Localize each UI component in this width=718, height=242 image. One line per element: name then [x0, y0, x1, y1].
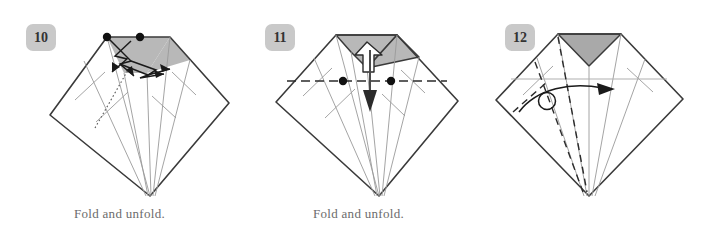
origami-diagram-12 — [479, 0, 718, 206]
shaded-region-12 — [558, 34, 621, 66]
fold-lines-12 — [513, 37, 587, 192]
step-caption-10: Fold and unfold. — [0, 206, 239, 222]
right-reference-dot-11 — [387, 77, 395, 85]
origami-diagram-10 — [0, 0, 239, 206]
step-panel-10: 10 — [0, 0, 239, 242]
step-caption-11: Fold and unfold. — [239, 206, 478, 222]
hidden-crease-10 — [95, 70, 128, 128]
right-reference-dot-10 — [136, 33, 144, 41]
pivot-circle-12 — [539, 93, 556, 110]
left-reference-dot-11 — [339, 77, 347, 85]
left-reference-dot-10 — [103, 33, 111, 41]
step-panel-11: 11 — [239, 0, 478, 242]
instruction-sheet: 10 — [0, 0, 718, 242]
step-panel-12: 12 — [479, 0, 718, 242]
origami-diagram-11 — [239, 0, 478, 206]
rotate-arrow-right-12 — [519, 86, 603, 112]
